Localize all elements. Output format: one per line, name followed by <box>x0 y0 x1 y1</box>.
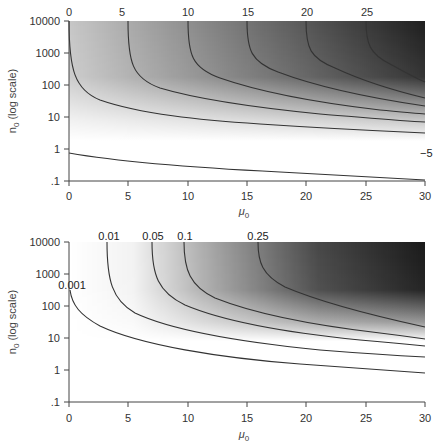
x-tick-5: 5 <box>125 190 131 202</box>
contour-label-0.25: 0.25 <box>247 230 268 242</box>
y-tick-10: 10 <box>48 332 60 344</box>
contour-label-0.1: 0.1 <box>177 230 192 242</box>
x-tick-20: 20 <box>300 190 312 202</box>
top-label-10: 10 <box>182 6 194 18</box>
x-tick-10: 10 <box>182 412 194 424</box>
y-tick-1000: 1000 <box>36 47 60 59</box>
top-label-5: 5 <box>119 6 125 18</box>
bottom-y-axis-title: n0 (log scale) <box>6 290 21 354</box>
figure: 0 5 10 15 20 25 −5 10000 1000 100 10 1 .… <box>0 0 437 448</box>
top-y-axis-title: n0 (log scale) <box>6 69 21 133</box>
x-tick-0: 0 <box>66 190 72 202</box>
y-tick-0.1: .1 <box>51 175 60 187</box>
x-tick-0: 0 <box>66 412 72 424</box>
x-tick-10: 10 <box>182 190 194 202</box>
y-tick-1000: 1000 <box>36 268 60 280</box>
contour-label-0.01: 0.01 <box>98 230 119 242</box>
x-tick-5: 5 <box>125 412 131 424</box>
top-contour-labels: 0 5 10 15 20 25 <box>66 6 373 18</box>
x-tick-30: 30 <box>419 190 431 202</box>
y-tick-0.1: .1 <box>51 396 60 408</box>
top-x-tick-labels: 0 5 10 15 20 25 30 <box>66 190 431 202</box>
x-tick-20: 20 <box>300 412 312 424</box>
x-tick-25: 25 <box>360 190 372 202</box>
x-tick-15: 15 <box>241 412 253 424</box>
top-plot-shading <box>69 21 425 181</box>
contour-figure: 0 5 10 15 20 25 −5 10000 1000 100 10 1 .… <box>0 0 437 448</box>
y-tick-1: 1 <box>54 143 60 155</box>
top-contour-plot: 0 5 10 15 20 25 −5 10000 1000 100 10 1 .… <box>6 6 433 220</box>
y-tick-100: 100 <box>42 79 60 91</box>
bottom-contour-plot: 0.001 0.01 0.05 0.1 0.25 10000 1000 100 … <box>6 230 431 443</box>
top-label-25: 25 <box>361 6 373 18</box>
bottom-y-tick-labels: 10000 1000 100 10 1 .1 <box>29 236 60 408</box>
y-tick-10: 10 <box>48 111 60 123</box>
bottom-x-tick-labels: 0 5 10 15 20 25 30 <box>66 412 431 424</box>
top-label-0: 0 <box>66 6 72 18</box>
top-label-15: 15 <box>242 6 254 18</box>
bottom-plot-shading <box>69 242 425 402</box>
top-label-20: 20 <box>301 6 313 18</box>
x-tick-15: 15 <box>241 190 253 202</box>
y-tick-1: 1 <box>54 364 60 376</box>
y-tick-10000: 10000 <box>29 236 60 248</box>
contour-label-minus5: −5 <box>420 147 433 159</box>
contour-label-0.05: 0.05 <box>142 230 163 242</box>
x-tick-25: 25 <box>360 412 372 424</box>
y-tick-10000: 10000 <box>29 15 60 27</box>
y-tick-100: 100 <box>42 300 60 312</box>
top-y-tick-labels: 10000 1000 100 10 1 .1 <box>29 15 60 187</box>
bottom-x-axis-title: μ0 <box>238 428 250 443</box>
contour-label-0.001: 0.001 <box>58 279 86 291</box>
top-x-axis-title: μ0 <box>238 205 250 220</box>
x-tick-30: 30 <box>419 412 431 424</box>
